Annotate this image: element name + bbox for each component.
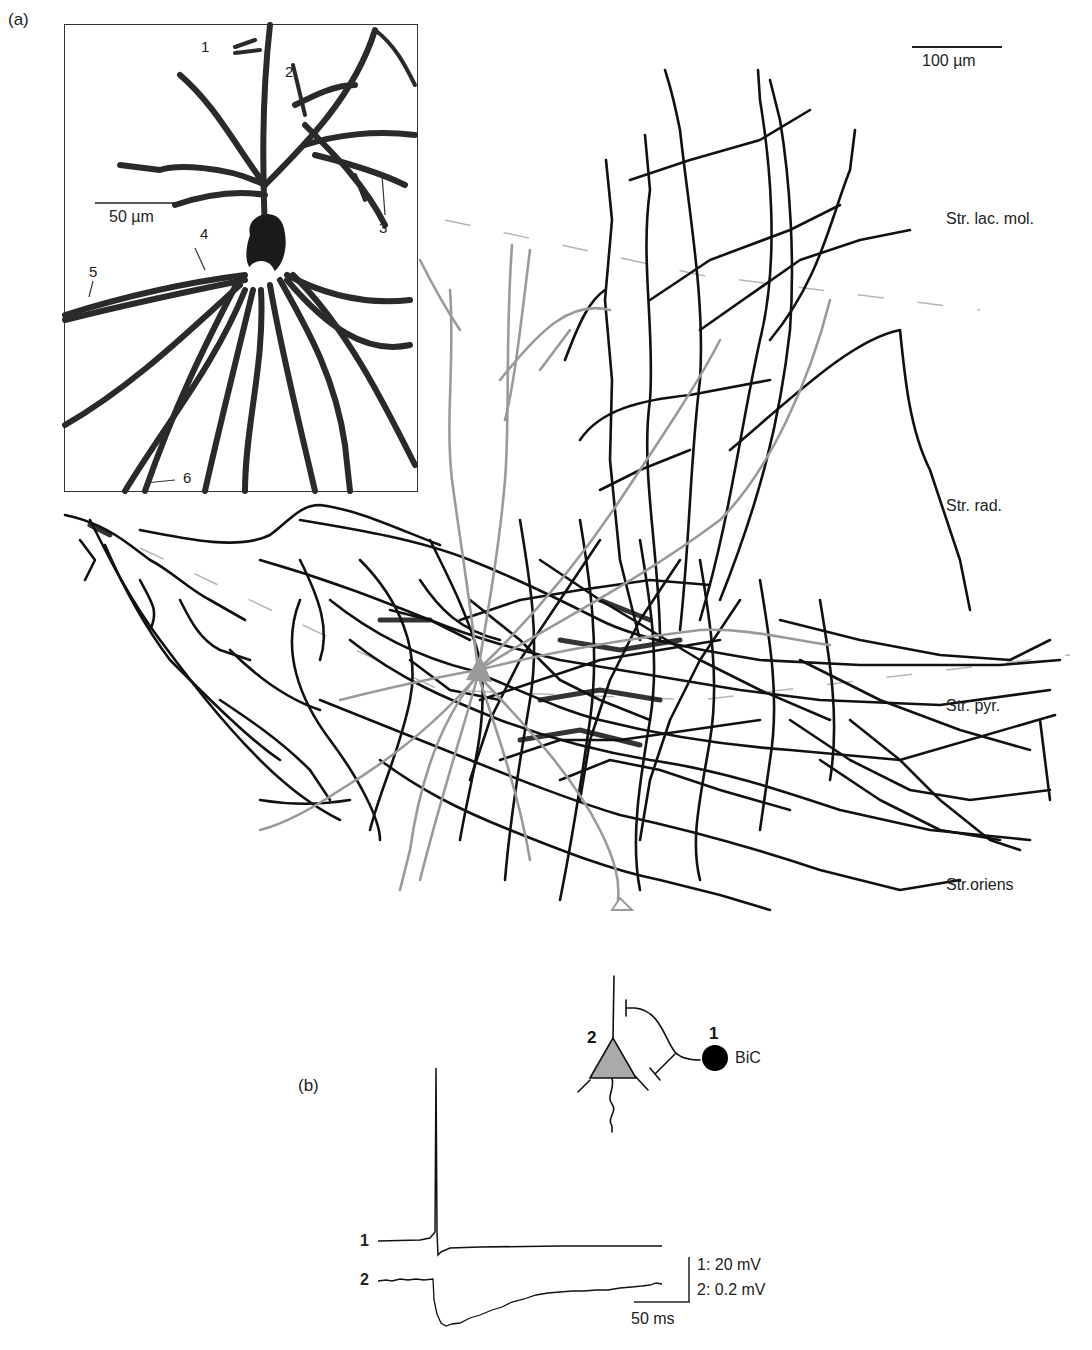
trace-1-action-potential [378,1068,662,1255]
scale-voltage-1: 1: 20 mV [697,1256,761,1274]
scale-voltage-2: 2: 0.2 mV [697,1281,765,1299]
trace-1-label: 1 [360,1232,369,1250]
trace-scale-bars [634,1257,689,1302]
trace-2-ipsp [378,1279,662,1326]
scale-time: 50 ms [631,1310,675,1328]
electrophysiology-traces [0,0,1092,1350]
trace-2-label: 2 [360,1271,369,1289]
